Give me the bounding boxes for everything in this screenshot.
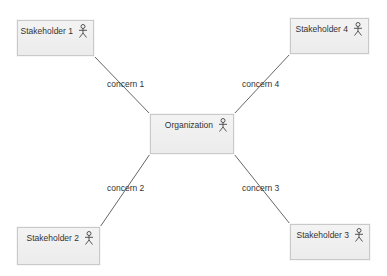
node-title: Organization bbox=[165, 120, 213, 130]
node-title: Stakeholder 1 bbox=[21, 26, 73, 36]
edge-label-concern-1: concern 1 bbox=[107, 79, 144, 89]
node-stakeholder-1[interactable]: Stakeholder 1 bbox=[17, 20, 94, 56]
diagram-canvas: Stakeholder 1 Stakeholder 4 Organization bbox=[0, 0, 387, 276]
edge-label-concern-4: concern 4 bbox=[242, 79, 279, 89]
node-stakeholder-4[interactable]: Stakeholder 4 bbox=[290, 18, 369, 54]
node-stakeholder-2[interactable]: Stakeholder 2 bbox=[17, 227, 100, 265]
actor-icon bbox=[354, 228, 364, 242]
edge-label-concern-3: concern 3 bbox=[242, 183, 279, 193]
actor-icon bbox=[218, 118, 228, 132]
node-title: Stakeholder 4 bbox=[296, 24, 348, 34]
edge-label-concern-2: concern 2 bbox=[107, 183, 144, 193]
node-organization[interactable]: Organization bbox=[150, 114, 234, 154]
actor-icon bbox=[84, 231, 94, 245]
actor-icon bbox=[353, 22, 363, 36]
actor-icon bbox=[78, 24, 88, 38]
node-title: Stakeholder 3 bbox=[297, 230, 349, 240]
node-stakeholder-3[interactable]: Stakeholder 3 bbox=[290, 224, 370, 260]
node-title: Stakeholder 2 bbox=[27, 233, 79, 243]
